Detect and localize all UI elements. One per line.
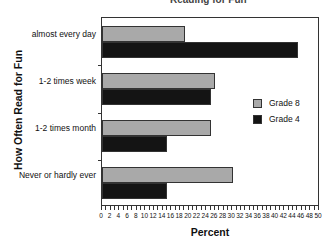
- x-tick: [227, 206, 228, 210]
- bar-grade-4: [102, 89, 211, 105]
- x-tick: [175, 206, 176, 210]
- x-tick: [240, 206, 241, 210]
- x-tick: [153, 206, 154, 210]
- legend-swatch-icon: [253, 99, 262, 108]
- x-tick: [144, 206, 145, 210]
- x-tick: [170, 206, 171, 210]
- x-tick: [179, 206, 180, 210]
- x-tick: [318, 206, 319, 210]
- x-tick: [162, 206, 163, 210]
- x-tick: [118, 206, 119, 210]
- x-tick: [262, 206, 263, 210]
- x-tick: [231, 206, 232, 210]
- category-label: 1-2 times month: [35, 123, 96, 133]
- x-tick: [110, 206, 111, 210]
- category-label: 1-2 times week: [39, 76, 96, 86]
- bar-grade-8: [102, 26, 185, 42]
- x-tick: [205, 206, 206, 210]
- x-tick: [257, 206, 258, 210]
- x-tick: [214, 206, 215, 210]
- x-tick: [105, 206, 106, 210]
- x-tick: [101, 206, 102, 210]
- y-tick: [98, 65, 102, 66]
- x-tick: [210, 206, 211, 210]
- x-tick: [270, 206, 271, 210]
- bar-grade-8: [102, 73, 215, 89]
- x-tick: [131, 206, 132, 210]
- bar-grade-8: [102, 120, 211, 136]
- legend: Grade 8Grade 4: [253, 95, 300, 127]
- x-tick: [157, 206, 158, 210]
- legend-item: Grade 4: [253, 111, 300, 127]
- legend-item: Grade 8: [253, 95, 300, 111]
- x-tick: [236, 206, 237, 210]
- x-tick: [305, 206, 306, 210]
- legend-label: Grade 8: [269, 98, 300, 108]
- x-axis-label: Percent: [101, 226, 319, 238]
- x-tick: [301, 206, 302, 210]
- x-tick: [188, 206, 189, 210]
- x-tick: [127, 206, 128, 210]
- x-tick-label: 50: [312, 212, 324, 219]
- category-label: almost every day: [32, 29, 96, 39]
- y-axis-label: How Often Read for Fun: [12, 40, 24, 180]
- x-tick: [196, 206, 197, 210]
- bar-grade-4: [102, 136, 167, 152]
- x-tick: [183, 206, 184, 210]
- x-tick: [314, 206, 315, 210]
- x-tick: [283, 206, 284, 210]
- x-tick: [123, 206, 124, 210]
- x-tick: [136, 206, 137, 210]
- x-tick: [244, 206, 245, 210]
- x-tick: [140, 206, 141, 210]
- x-tick: [149, 206, 150, 210]
- x-tick: [166, 206, 167, 210]
- x-tick: [266, 206, 267, 210]
- x-tick: [288, 206, 289, 210]
- x-tick: [296, 206, 297, 210]
- x-tick: [249, 206, 250, 210]
- chart-title: Reading for Fun: [170, 0, 247, 5]
- x-tick: [192, 206, 193, 210]
- x-tick: [201, 206, 202, 210]
- bar-grade-4: [102, 183, 167, 199]
- legend-label: Grade 4: [269, 114, 300, 124]
- x-tick: [279, 206, 280, 210]
- legend-swatch-icon: [253, 115, 262, 124]
- bar-grade-4: [102, 42, 298, 58]
- y-tick: [98, 113, 102, 114]
- x-tick: [309, 206, 310, 210]
- x-tick: [275, 206, 276, 210]
- bar-grade-8: [102, 167, 233, 183]
- x-tick: [223, 206, 224, 210]
- category-label: Never or hardly ever: [19, 170, 96, 180]
- y-tick: [98, 160, 102, 161]
- x-tick: [218, 206, 219, 210]
- x-tick: [253, 206, 254, 210]
- x-tick: [114, 206, 115, 210]
- x-tick: [292, 206, 293, 210]
